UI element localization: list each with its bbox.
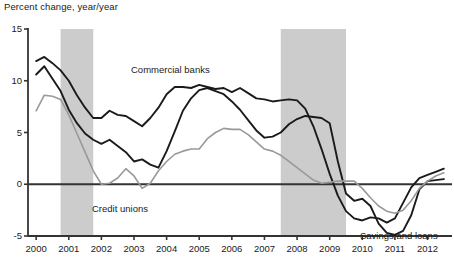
series-label-commercial-banks: Commercial banks <box>131 64 210 75</box>
y-tick-label: 5 <box>0 127 22 138</box>
series-line-commercial-banks <box>36 57 444 223</box>
y-tick-label: -5 <box>0 230 22 241</box>
chart-container: Percent change, year/year 151050-5 20002… <box>0 0 454 275</box>
series-label-credit-unions: Credit unions <box>92 203 148 214</box>
series-line-credit-unions <box>36 95 444 213</box>
y-tick-label: 10 <box>0 75 22 86</box>
y-tick-label: 0 <box>0 178 22 189</box>
series-label-savings-and-loans: Savings and loans <box>360 230 438 241</box>
y-tick-label: 15 <box>0 23 22 34</box>
x-tick-label: 2012 <box>408 243 448 254</box>
shaded-region-recession-2008 <box>281 29 346 236</box>
